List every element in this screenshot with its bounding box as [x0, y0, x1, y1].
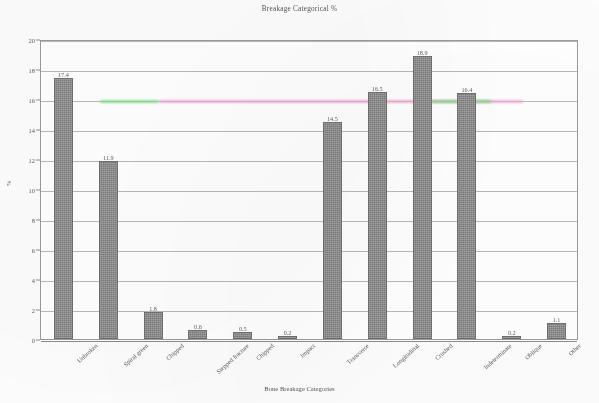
x-tick-label-4: Chipped — [254, 342, 275, 361]
bar-7 — [368, 92, 387, 340]
y-tick-label-18: 18 — [29, 67, 35, 74]
bar-1 — [99, 161, 118, 340]
bar-value-label-8: 18.9 — [417, 49, 428, 56]
bar-11 — [547, 323, 566, 340]
gridline-2 — [41, 311, 577, 312]
bar-9 — [457, 93, 476, 339]
x-tick-label-8: Crushed — [433, 342, 453, 361]
y-axis-tick-labels: 02468101214161820 — [0, 40, 40, 340]
scanned-page: Breakage Categorical % % 024681012141618… — [0, 0, 599, 403]
y-tick-label-4: 4 — [32, 277, 35, 284]
x-tick-label-7: Longitudinal — [392, 342, 421, 369]
x-tick-label-3: Stepped fracture — [215, 342, 250, 375]
bar-value-label-11: 1.1 — [553, 316, 561, 323]
y-tick-label-2: 2 — [32, 307, 35, 314]
x-tick-label-0: Unbroken — [76, 342, 99, 364]
x-axis-tick-labels: UnbrokenSpiral greenChippedStepped fract… — [40, 342, 578, 386]
bar-value-label-2: 1.8 — [149, 305, 157, 312]
x-tick-label-6: Transverse — [345, 342, 370, 366]
chart-title: Breakage Categorical % — [0, 5, 599, 13]
bar-0 — [54, 78, 73, 339]
x-tick-label-5: Impact — [298, 342, 316, 359]
bar-4 — [233, 332, 252, 340]
y-tick-label-10: 10 — [29, 187, 35, 194]
bar-3 — [188, 330, 207, 339]
x-tick-label-2: Chipped — [165, 342, 186, 361]
gridline-6 — [41, 251, 577, 252]
x-tick-label-10: Oblique — [523, 342, 543, 361]
y-tick-label-14: 14 — [29, 127, 35, 134]
bar-value-label-4: 0.5 — [239, 325, 247, 332]
gridline-20 — [41, 41, 577, 42]
y-tick-label-12: 12 — [29, 157, 35, 164]
y-tick-label-0: 0 — [32, 337, 35, 344]
bar-value-label-0: 17.4 — [58, 71, 69, 78]
gridline-16 — [41, 101, 577, 102]
bar-value-label-5: 0.2 — [284, 329, 292, 336]
plot-area: 17.411.91.80.60.50.214.516.518.916.40.21… — [40, 40, 578, 340]
bar-10 — [502, 336, 521, 339]
gridline-12 — [41, 161, 577, 162]
x-tick-label-11: Other — [566, 342, 581, 357]
x-tick-label-1: Spiral green — [122, 342, 149, 368]
gridline-14 — [41, 131, 577, 132]
bar-value-label-10: 0.2 — [508, 329, 516, 336]
gridline-18 — [41, 71, 577, 72]
bar-value-label-3: 0.6 — [194, 323, 202, 330]
bar-2 — [144, 312, 163, 339]
bar-value-label-9: 16.4 — [461, 86, 472, 93]
y-tick-label-20: 20 — [29, 37, 35, 44]
bar-value-label-6: 14.5 — [327, 115, 338, 122]
y-tick-label-8: 8 — [32, 217, 35, 224]
y-tick-label-6: 6 — [32, 247, 35, 254]
gridline-10 — [41, 191, 577, 192]
bar-5 — [278, 336, 297, 339]
bar-value-label-1: 11.9 — [103, 154, 114, 161]
gridline-8 — [41, 221, 577, 222]
bar-8 — [413, 56, 432, 340]
bar-value-label-7: 16.5 — [372, 85, 383, 92]
x-tick-label-9: Indeterminate — [482, 342, 513, 371]
gridline-4 — [41, 281, 577, 282]
x-axis-title: Bone Breakage Categories — [0, 385, 599, 392]
y-tick-label-16: 16 — [29, 97, 35, 104]
bar-6 — [323, 122, 342, 340]
